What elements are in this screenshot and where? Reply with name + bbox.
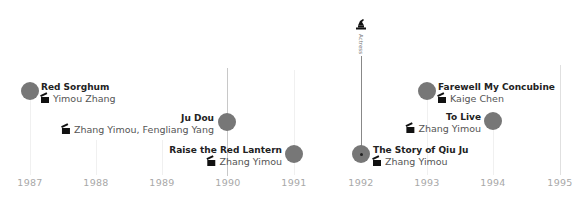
event-director: Yimou Zhang	[41, 93, 116, 105]
event-title: Ju Dou	[62, 112, 214, 124]
event-director: Zhang Yimou, Fengliang Yang	[62, 124, 214, 136]
clapperboard-icon	[373, 158, 381, 166]
tick-1989: 1989	[149, 177, 174, 188]
award-connector-line	[361, 56, 362, 154]
event-dot-red-sorghum[interactable]	[21, 82, 39, 100]
event-dot-the-story-of-qiu-ju[interactable]	[352, 145, 370, 163]
event-dot-to-live[interactable]	[484, 112, 502, 130]
tick-1993: 1993	[414, 177, 439, 188]
award-label: Actress	[358, 34, 364, 54]
event-title: Red Sorghum	[41, 81, 116, 93]
gridline-1994	[493, 130, 494, 175]
event-title: To Live	[406, 111, 481, 123]
award-marker	[360, 153, 363, 156]
event-label-the-story-of-qiu-ju: The Story of Qiu Ju Zhang Yimou	[373, 144, 468, 168]
event-dot-farewell-my-concubine[interactable]	[418, 82, 436, 100]
event-title: Farewell My Concubine	[438, 81, 555, 93]
tick-1987: 1987	[17, 177, 42, 188]
clapperboard-icon	[438, 95, 446, 103]
award-lion-icon	[355, 18, 367, 30]
tick-1990: 1990	[215, 177, 240, 188]
tick-1994: 1994	[480, 177, 505, 188]
gridline-1987	[30, 95, 31, 175]
clapperboard-icon	[62, 126, 70, 134]
event-label-ju-dou: Ju Dou Zhang Yimou, Fengliang Yang	[62, 112, 214, 136]
event-label-raise-the-red-lantern: Raise the Red Lantern Zhang Yimou	[169, 144, 282, 168]
event-director: Zhang Yimou	[373, 156, 468, 168]
timeline-chart: 1987 1988 1989 1990 1991 1992 1993 1994 …	[0, 0, 580, 199]
event-director: Kaige Chen	[438, 93, 555, 105]
event-director: Zhang Yimou	[169, 156, 282, 168]
event-label-farewell-my-concubine: Farewell My Concubine Kaige Chen	[438, 81, 555, 105]
event-label-red-sorghum: Red Sorghum Yimou Zhang	[41, 81, 116, 105]
event-title: Raise the Red Lantern	[169, 144, 282, 156]
event-dot-ju-dou[interactable]	[218, 113, 236, 131]
tick-1995: 1995	[547, 177, 572, 188]
clapperboard-icon	[41, 95, 49, 103]
event-director: Zhang Yimou	[406, 123, 481, 135]
tick-1988: 1988	[83, 177, 108, 188]
clapperboard-icon	[207, 158, 215, 166]
event-title: The Story of Qiu Ju	[373, 144, 468, 156]
gridline-1988	[96, 140, 97, 175]
tick-1992: 1992	[348, 177, 373, 188]
clapperboard-icon	[406, 125, 414, 133]
stem-1995	[560, 65, 561, 175]
event-label-to-live: To Live Zhang Yimou	[406, 111, 481, 135]
tick-1991: 1991	[281, 177, 306, 188]
event-dot-raise-the-red-lantern[interactable]	[285, 145, 303, 163]
gridline-1989	[162, 140, 163, 175]
